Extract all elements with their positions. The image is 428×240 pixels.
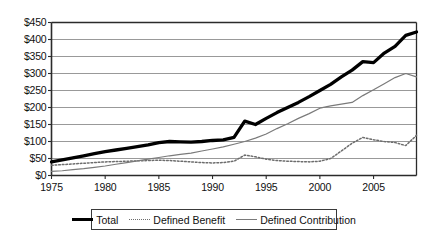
pension-assets-line-chart: $450$400$350$300$250$200$150$100$50$0 19…	[0, 0, 428, 240]
y-tick-label: $250	[24, 84, 47, 96]
y-tick-label: $100	[24, 135, 47, 147]
x-tick-label: 1985	[137, 181, 181, 193]
data-series	[52, 32, 417, 171]
series-line-defined-contribution	[52, 74, 417, 172]
x-tick-label: 1980	[83, 181, 127, 193]
axis-ticks	[48, 23, 374, 180]
legend-swatch-defined-benefit-icon	[129, 219, 150, 220]
x-tick-label: 2000	[298, 181, 342, 193]
y-tick-label: $350	[24, 50, 47, 62]
plot-area	[0, 0, 428, 240]
legend-label-defined-benefit: Defined Benefit	[152, 214, 225, 226]
legend-label-total: Total	[95, 214, 118, 226]
x-tick-label: 1995	[244, 181, 288, 193]
x-tick-label: 1990	[191, 181, 235, 193]
x-tick-label: 1975	[30, 181, 74, 193]
legend-item-defined-contribution: Defined Contribution	[236, 214, 356, 226]
y-tick-label: $300	[24, 67, 47, 79]
y-tick-label: $0	[35, 169, 46, 181]
legend-item-total: Total	[72, 214, 118, 226]
y-tick-label: $200	[24, 101, 47, 113]
legend-swatch-defined-contribution-icon	[236, 219, 257, 220]
legend-label-defined-contribution: Defined Contribution	[259, 214, 356, 226]
y-tick-label: $450	[24, 16, 47, 28]
gridlines	[52, 40, 417, 159]
legend-item-defined-benefit: Defined Benefit	[129, 214, 225, 226]
y-tick-label: $150	[24, 118, 47, 130]
x-tick-label: 2005	[352, 181, 396, 193]
legend-swatch-total-icon	[72, 218, 93, 221]
y-tick-label: $400	[24, 33, 47, 45]
y-tick-label: $50	[30, 152, 47, 164]
chart-legend: Total Defined Benefit Defined Contributi…	[91, 209, 337, 230]
